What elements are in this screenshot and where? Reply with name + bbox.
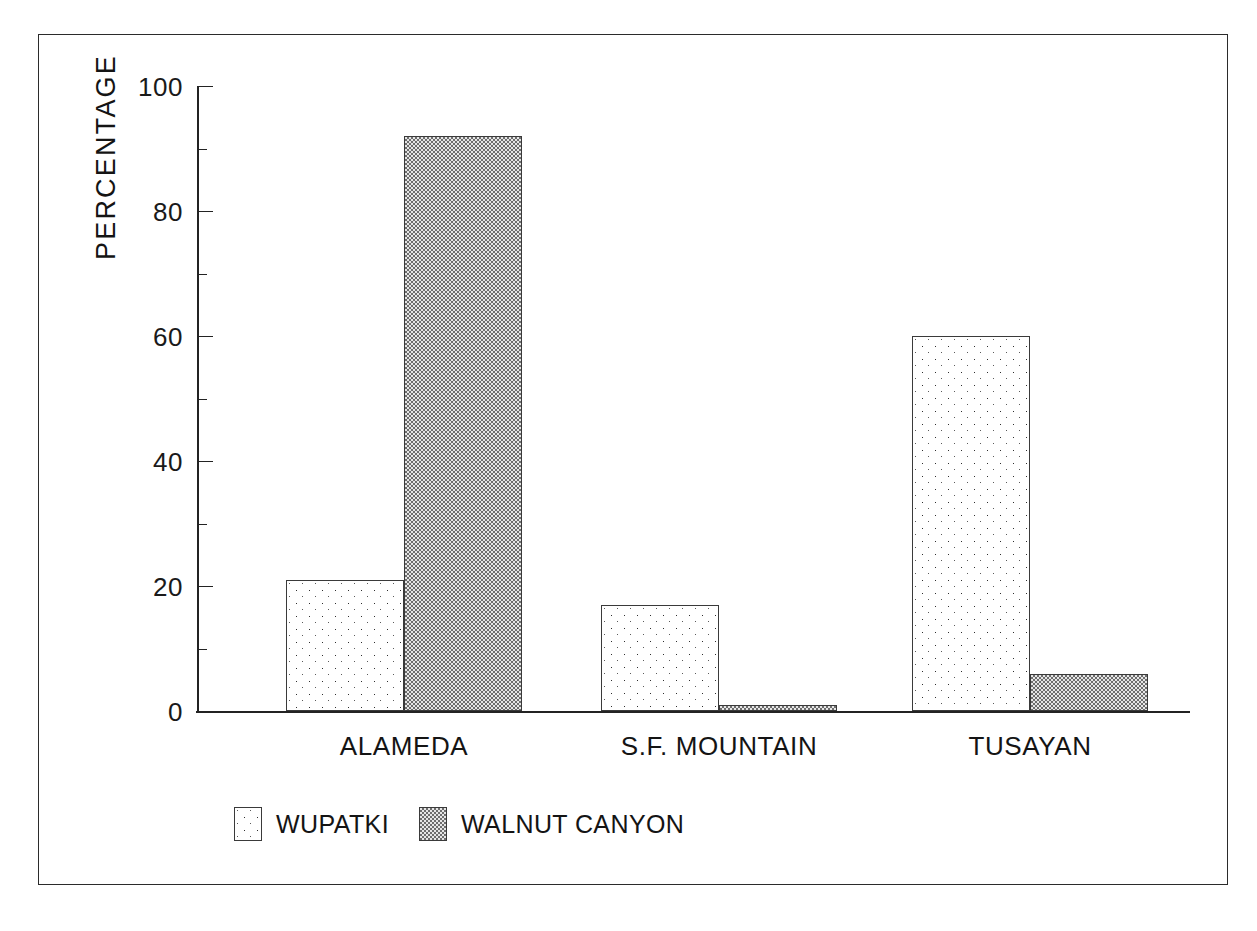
x-axis-category-label: S.F. MOUNTAIN xyxy=(621,731,818,762)
legend-swatch-icon xyxy=(234,807,262,841)
legend-entry: WALNUT CANYON xyxy=(419,807,684,841)
bar-alameda-walnut-canyon xyxy=(404,136,522,711)
legend-label: WUPATKI xyxy=(276,810,389,839)
bar-s-f-mountain-walnut-canyon xyxy=(719,705,837,711)
bar-s-f-mountain-wupatki xyxy=(601,605,719,711)
y-axis-tick-label: 0 xyxy=(168,697,183,728)
y-axis-tick: 100 xyxy=(197,86,213,87)
y-axis-tick: 60 xyxy=(197,336,213,337)
y-axis-tick xyxy=(197,274,207,275)
legend-swatch-icon xyxy=(419,807,447,841)
x-axis-category-label: TUSAYAN xyxy=(968,731,1091,762)
figure-frame: PERCENTAGE 100806040200 ALAMEDAS.F. MOUN… xyxy=(38,34,1228,885)
y-axis-tick xyxy=(197,399,207,400)
legend-entry: WUPATKI xyxy=(234,807,389,841)
y-axis-tick-label: 80 xyxy=(153,197,183,228)
y-axis-tick: 0 xyxy=(197,711,213,712)
y-axis-tick-label: 60 xyxy=(153,322,183,353)
bar-alameda-wupatki xyxy=(286,580,404,711)
y-axis-tick: 80 xyxy=(197,211,213,212)
y-axis-tick: 20 xyxy=(197,586,213,587)
x-axis-line xyxy=(196,711,1190,713)
bar-tusayan-walnut-canyon xyxy=(1030,674,1148,712)
y-axis-tick-label: 40 xyxy=(153,447,183,478)
y-axis-title: PERCENTAGE xyxy=(91,220,122,260)
y-axis-tick xyxy=(197,649,207,650)
y-axis-tick-label: 100 xyxy=(138,72,183,103)
y-axis-tick xyxy=(197,524,207,525)
y-axis-tick xyxy=(197,149,207,150)
y-axis-tick: 40 xyxy=(197,461,213,462)
y-axis-tick-label: 20 xyxy=(153,572,183,603)
plot-area: 100806040200 ALAMEDAS.F. MOUNTAINTUSAYAN xyxy=(197,86,1197,711)
legend-label: WALNUT CANYON xyxy=(461,810,684,839)
x-axis-category-label: ALAMEDA xyxy=(340,731,468,762)
bar-tusayan-wupatki xyxy=(912,336,1030,711)
chart-legend: WUPATKIWALNUT CANYON xyxy=(234,807,714,841)
